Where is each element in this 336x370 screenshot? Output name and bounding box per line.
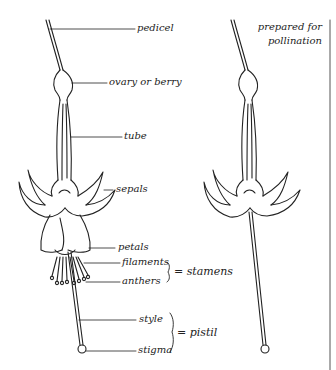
label-tube: tube [124, 130, 147, 142]
caption-line-2: pollination [250, 34, 322, 48]
label-ovary: ovary or berry [109, 76, 182, 88]
fuchsia-diagram: pedicel ovary or berry tube sepals petal… [0, 0, 336, 370]
group-stamens: = stamens [174, 266, 233, 278]
label-style: style [139, 313, 163, 325]
caption-line-1: prepared for [250, 20, 322, 34]
group-pistil: = pistil [177, 327, 217, 339]
label-pedicel: pedicel [137, 22, 174, 34]
label-sepals: sepals [116, 183, 148, 195]
label-filaments: filaments [122, 256, 169, 268]
label-anthers: anthers [122, 275, 161, 287]
label-petals: petals [118, 241, 149, 253]
flower-prepared-right [204, 20, 300, 353]
caption-prepared-for-pollination: prepared for pollination [250, 20, 322, 48]
flower-illustrations [0, 0, 336, 370]
flower-anatomy-left [19, 20, 173, 353]
label-stigma: stigma [138, 344, 172, 356]
